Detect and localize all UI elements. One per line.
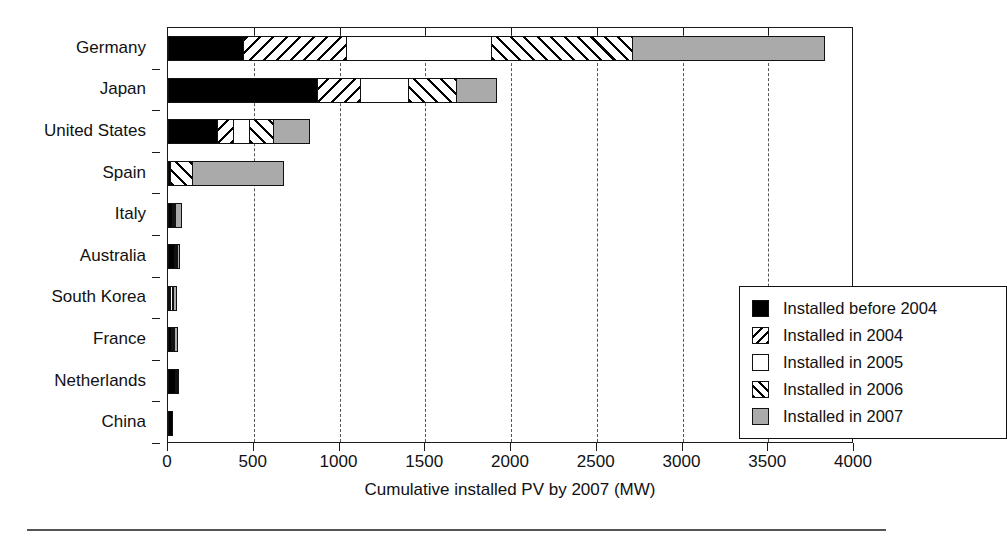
x-axis-tick-3500	[767, 443, 768, 451]
y-axis-label-japan: Japan	[0, 79, 160, 99]
y-axis-tick	[152, 110, 160, 111]
plot-top-tick-2000	[511, 28, 512, 35]
stacked-bar	[168, 161, 284, 186]
x-axis-tick-2500	[596, 443, 597, 451]
stacked-bar	[168, 203, 182, 228]
y-axis-labels: GermanyJapanUnited StatesSpainItalyAustr…	[0, 27, 160, 443]
x-axis-tick-label-0: 0	[127, 452, 207, 472]
x-axis-tick-0	[167, 443, 168, 451]
legend-swatch-icon	[752, 408, 769, 425]
segment-2007	[175, 203, 182, 228]
segment-2006	[170, 161, 193, 186]
plot-top-tick-3500	[768, 28, 769, 35]
legend-label: Installed in 2007	[783, 407, 903, 426]
x-axis-tick-label-3000: 3000	[642, 452, 722, 472]
x-axis-tick-500	[253, 443, 254, 451]
segment-2006	[177, 369, 179, 394]
stacked-bar	[168, 119, 310, 144]
segment-2006	[249, 119, 274, 144]
bar-row	[168, 70, 852, 112]
segment-before-2004	[168, 78, 318, 103]
plot-top-tick-1000	[340, 28, 341, 35]
legend-item[interactable]: Installed in 2004	[752, 322, 996, 349]
y-axis-label-france: France	[0, 329, 160, 349]
x-axis-title: Cumulative installed PV by 2007 (MW)	[167, 480, 853, 500]
chart-legend: Installed before 2004Installed in 2004In…	[739, 286, 1007, 439]
segment-before-2004	[168, 119, 218, 144]
legend-swatch-icon	[752, 327, 769, 344]
y-axis-tick	[152, 152, 160, 153]
y-axis-tick	[152, 235, 160, 236]
plot-area: Installed before 2004Installed in 2004In…	[167, 27, 853, 443]
legend-label: Installed in 2006	[783, 380, 903, 399]
segment-2004	[217, 119, 234, 144]
segment-2007	[456, 78, 497, 103]
x-axis-tick-label-500: 500	[213, 452, 293, 472]
plot-top-tick-1500	[425, 28, 426, 35]
x-axis-tick-3000	[682, 443, 683, 451]
bar-row	[168, 28, 852, 70]
stacked-bar	[168, 286, 177, 311]
segment-2007	[174, 327, 178, 352]
segment-2006	[408, 78, 457, 103]
bar-row	[168, 236, 852, 278]
stacked-bar	[168, 78, 497, 103]
stacked-bar	[168, 369, 179, 394]
segment-2006	[491, 36, 633, 61]
segment-before-2004	[168, 411, 173, 436]
stacked-bar	[168, 36, 825, 61]
segment-2007	[177, 244, 179, 269]
y-axis-tick	[152, 360, 160, 361]
y-axis-tick	[152, 277, 160, 278]
y-axis-tick	[152, 69, 160, 70]
x-axis-tick-label-3500: 3500	[727, 452, 807, 472]
x-axis-tick-label-1500: 1500	[384, 452, 464, 472]
plot-top-tick-3000	[683, 28, 684, 35]
bar-row	[168, 153, 852, 195]
legend-label: Installed in 2004	[783, 326, 903, 345]
stacked-bar	[168, 327, 178, 352]
x-axis-tick-label-1000: 1000	[299, 452, 379, 472]
y-axis-label-netherlands: Netherlands	[0, 371, 160, 391]
legend-label: Installed before 2004	[783, 299, 937, 318]
y-axis-tick	[152, 401, 160, 402]
segment-2004	[317, 78, 361, 103]
y-axis-label-germany: Germany	[0, 38, 160, 58]
x-axis-tick-labels: 05001000150020002500300035004000	[0, 452, 913, 476]
x-axis-tick-label-2000: 2000	[470, 452, 550, 472]
x-axis-tick-2000	[510, 443, 511, 451]
y-axis-tick	[152, 193, 160, 194]
segment-2005	[360, 78, 409, 103]
segment-2005	[233, 119, 251, 144]
segment-before-2004	[168, 36, 244, 61]
x-axis-tick-1500	[424, 443, 425, 451]
x-axis-tick-1000	[339, 443, 340, 451]
bar-row	[168, 194, 852, 236]
y-axis-label-australia: Australia	[0, 246, 160, 266]
stacked-bar	[168, 411, 173, 436]
x-axis-tick-4000	[853, 443, 854, 451]
stacked-bar	[168, 244, 180, 269]
bar-row	[168, 111, 852, 153]
legend-label: Installed in 2005	[783, 353, 903, 372]
y-axis-label-china: China	[0, 412, 160, 432]
legend-item[interactable]: Installed in 2005	[752, 349, 996, 376]
y-axis-label-south-korea: South Korea	[0, 287, 160, 307]
legend-item[interactable]: Installed in 2006	[752, 376, 996, 403]
legend-swatch-icon	[752, 300, 769, 317]
plot-top-tick-500	[254, 28, 255, 35]
legend-swatch-icon	[752, 354, 769, 371]
y-axis-tick	[152, 443, 160, 444]
y-axis-label-united-states: United States	[0, 121, 160, 141]
legend-item[interactable]: Installed before 2004	[752, 295, 996, 322]
x-axis-tick-label-2500: 2500	[556, 452, 636, 472]
y-axis-label-italy: Italy	[0, 204, 160, 224]
segment-2004	[243, 36, 347, 61]
legend-item[interactable]: Installed in 2007	[752, 403, 996, 430]
segment-2007	[632, 36, 825, 61]
y-axis-label-spain: Spain	[0, 163, 160, 183]
y-axis-tick	[152, 318, 160, 319]
legend-swatch-icon	[752, 381, 769, 398]
segment-2007	[192, 161, 284, 186]
